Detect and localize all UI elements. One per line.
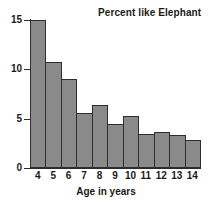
- x-axis-title: Age in years: [0, 186, 212, 197]
- y-tick-label: 10: [0, 64, 22, 74]
- bar: [154, 132, 170, 168]
- bar: [169, 135, 185, 168]
- bar: [76, 113, 92, 168]
- bar: [107, 124, 123, 168]
- bar: [45, 62, 61, 168]
- x-tick-label: 6: [61, 171, 76, 181]
- plot-area: [30, 20, 200, 168]
- x-tick-label: 13: [169, 171, 184, 181]
- y-tick-label: 15: [0, 15, 22, 25]
- bar: [61, 79, 77, 168]
- x-tick-label: 5: [45, 171, 60, 181]
- bar: [30, 20, 46, 168]
- bar: [185, 140, 201, 168]
- x-tick-label: 9: [107, 171, 122, 181]
- x-axis-line: [30, 168, 201, 169]
- chart-title: Percent like Elephant: [98, 7, 201, 18]
- x-tick-label: 8: [92, 171, 107, 181]
- bar: [138, 134, 154, 168]
- x-tick-label: 11: [138, 171, 153, 181]
- x-tick-label: 4: [30, 171, 45, 181]
- y-tick-label: 5: [0, 114, 22, 124]
- bar: [92, 105, 108, 168]
- x-tick-label: 10: [123, 171, 138, 181]
- x-tick-label: 14: [185, 171, 200, 181]
- y-tick-label: 0: [0, 163, 22, 173]
- y-tick-mark: [24, 168, 30, 169]
- bar: [123, 116, 139, 168]
- chart-figure: Percent like Elephant 051015 45678910111…: [0, 0, 212, 205]
- x-tick-label: 7: [76, 171, 91, 181]
- x-tick-label: 12: [154, 171, 169, 181]
